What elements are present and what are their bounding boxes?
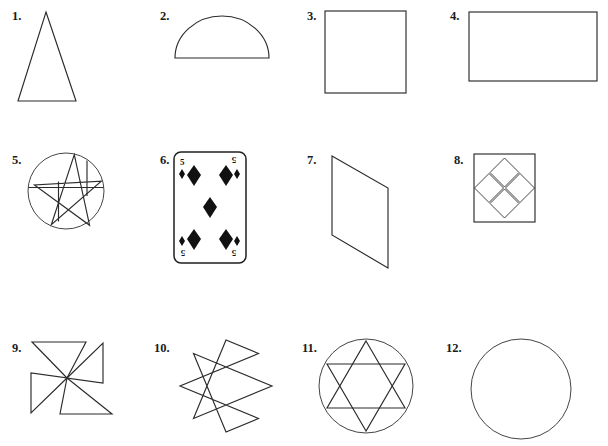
item-number-3: 3. [307,10,316,23]
parallelogram-figure [326,150,416,274]
semicircle-figure [172,8,274,70]
card-rank-bottom-right: 5 [231,248,236,258]
item-number-8: 8. [454,154,463,167]
playing-card-figure: 5 5 5 5 [172,150,250,266]
card-rank-top-left: 5 [180,157,185,167]
card-rank-bottom-left: 5 [180,248,185,258]
rectangle-figure [466,9,602,87]
pentagram-in-circle-figure [25,150,107,232]
pinwheel-figure [24,336,122,432]
item-number-2: 2. [160,10,169,23]
item-number-10: 10. [154,342,170,355]
item-number-4: 4. [450,10,459,23]
item-number-6: 6. [160,154,169,167]
item-number-12: 12. [446,342,462,355]
square-with-diamonds-figure [470,150,540,228]
item-number-7: 7. [307,154,316,167]
hexagram-in-circle-figure [316,336,416,436]
circle-figure [468,336,574,442]
octagram-figure [176,336,276,436]
item-number-5: 5. [12,154,21,167]
card-rank-top-right: 5 [231,155,236,165]
item-number-9: 9. [12,342,21,355]
item-number-11: 11. [302,342,317,355]
triangle-figure [14,8,94,108]
square-figure [322,8,410,98]
worksheet-page: 1. 2. 3. 4. 5. [0,0,608,446]
